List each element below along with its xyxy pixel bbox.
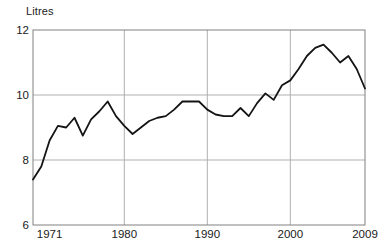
- y-tick-label-6: 6: [3, 219, 29, 231]
- data-series-group: [33, 45, 365, 180]
- x-tick-label-1971: 1971: [37, 228, 63, 240]
- x-tick-label-1980: 1980: [112, 228, 138, 240]
- y-tick-label-10: 10: [3, 89, 29, 101]
- line-chart: Litres 681012 19711980199020002009: [0, 0, 392, 249]
- plot-frame: [33, 30, 365, 225]
- data-line-0: [33, 45, 365, 180]
- horizontal-gridlines: [33, 95, 365, 160]
- x-tick-label-1990: 1990: [195, 228, 221, 240]
- x-tick-label-2000: 2000: [278, 228, 304, 240]
- y-tick-label-8: 8: [3, 154, 29, 166]
- y-tick-label-12: 12: [3, 24, 29, 36]
- x-tick-label-2009: 2009: [352, 228, 378, 240]
- vertical-gridlines: [124, 30, 290, 225]
- grid-and-frame: [33, 30, 365, 225]
- chart-plot-area: [0, 0, 392, 249]
